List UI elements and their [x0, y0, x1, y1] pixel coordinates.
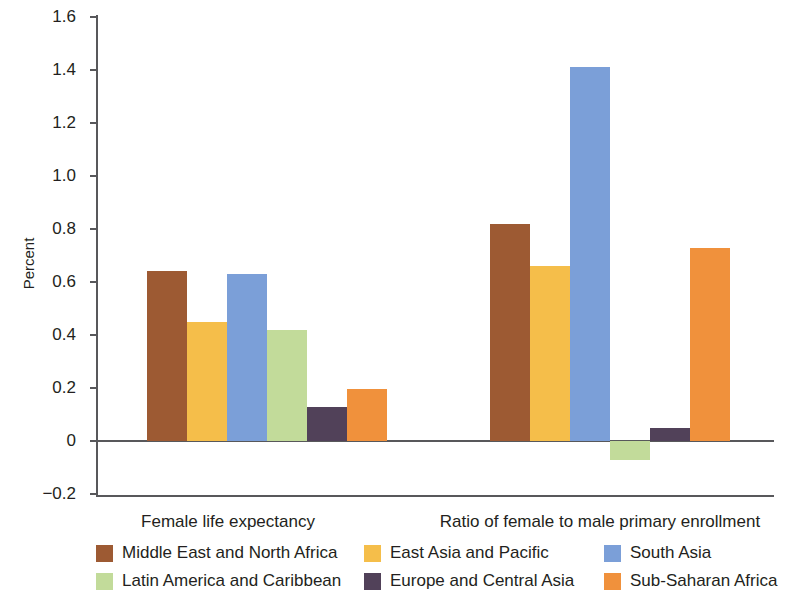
legend-swatch-icon — [96, 573, 113, 590]
legend-item-middle-east-and-north-africa[interactable]: Middle East and North Africa — [96, 543, 364, 563]
legend-swatch-icon — [364, 573, 381, 590]
bar — [650, 428, 690, 441]
legend-swatch-icon — [96, 545, 113, 562]
legend: Middle East and North Africa East Asia a… — [96, 543, 786, 599]
legend-item-label: Europe and Central Asia — [390, 571, 574, 591]
bar — [610, 441, 650, 460]
legend-item-label: South Asia — [630, 543, 711, 563]
legend-row: Middle East and North Africa East Asia a… — [96, 543, 786, 571]
bar — [187, 322, 227, 441]
legend-item-label: East Asia and Pacific — [390, 543, 549, 563]
bar — [347, 389, 387, 441]
bar — [147, 271, 187, 441]
bar — [227, 274, 267, 441]
legend-item-label: Latin America and Caribbean — [122, 571, 341, 591]
bar — [307, 407, 347, 441]
legend-item-south-asia[interactable]: South Asia — [604, 543, 784, 563]
bar — [570, 67, 610, 441]
legend-swatch-icon — [604, 573, 621, 590]
legend-item-europe-and-central-asia[interactable]: Europe and Central Asia — [364, 571, 604, 591]
bar — [490, 224, 530, 441]
bar — [530, 266, 570, 441]
legend-swatch-icon — [364, 545, 381, 562]
legend-item-sub-saharan-africa[interactable]: Sub-Saharan Africa — [604, 571, 784, 591]
legend-item-latin-america-and-caribbean[interactable]: Latin America and Caribbean — [96, 571, 364, 591]
legend-item-label: Sub-Saharan Africa — [630, 571, 777, 591]
legend-swatch-icon — [604, 545, 621, 562]
legend-item-east-asia-and-pacific[interactable]: East Asia and Pacific — [364, 543, 604, 563]
legend-row: Latin America and Caribbean Europe and C… — [96, 571, 786, 599]
bar — [690, 248, 730, 441]
bar-chart: Percent 1.61.41.21.00.80.60.40.20−0.2 Fe… — [0, 0, 791, 603]
bar — [267, 330, 307, 441]
legend-item-label: Middle East and North Africa — [122, 543, 337, 563]
group-label-female-life-expectancy: Female life expectancy — [48, 512, 408, 532]
group-label-ratio-female-male-primary-enrollment: Ratio of female to male primary enrollme… — [420, 512, 780, 532]
